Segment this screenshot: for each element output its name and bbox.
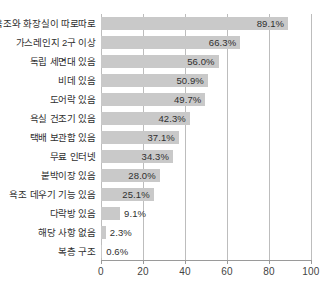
bar-value-label: 9.1% — [124, 204, 146, 223]
x-tick-label: 40 — [170, 266, 200, 277]
bar[interactable] — [101, 226, 106, 239]
category-label: 복층 구조 — [0, 242, 96, 261]
category-label: 무료 인터넷 — [0, 147, 96, 166]
bar-track: 2.3% — [101, 223, 311, 242]
bar-value-label: 2.3% — [110, 223, 132, 242]
bar[interactable] — [101, 207, 120, 220]
bar-row: 무료 인터넷34.3% — [0, 147, 320, 166]
category-label: 독립 세면대 있음 — [0, 52, 96, 71]
bar-track: 25.1% — [101, 185, 311, 204]
x-tick-label: 80 — [254, 266, 284, 277]
bar-value-label: 37.1% — [101, 128, 175, 147]
bar-value-label: 49.7% — [101, 90, 201, 109]
bar[interactable] — [101, 245, 102, 258]
bar-row: 도어락 있음49.7% — [0, 90, 320, 109]
category-label: 욕조와 화장실이 따로따로 — [0, 14, 96, 33]
bar-row: 욕조와 화장실이 따로따로89.1% — [0, 14, 320, 33]
bar-track: 0.6% — [101, 242, 311, 261]
bar-value-label: 0.6% — [106, 242, 128, 261]
bar-value-label: 42.3% — [101, 109, 186, 128]
tick-mark-0 — [101, 260, 102, 264]
bar-track: 89.1% — [101, 14, 311, 33]
category-label: 붙박이장 있음 — [0, 166, 96, 185]
x-tick-label: 0 — [86, 266, 116, 277]
bar-value-label: 50.9% — [101, 71, 204, 90]
bar-track: 9.1% — [101, 204, 311, 223]
bar-row: 욕조 데우기 기능 있음25.1% — [0, 185, 320, 204]
bar-track: 28.0% — [101, 166, 311, 185]
bar-value-label: 89.1% — [101, 14, 284, 33]
tick-mark-20 — [143, 260, 144, 264]
bar-row: 비데 있음50.9% — [0, 71, 320, 90]
x-axis-line — [101, 260, 312, 261]
bar-track: 56.0% — [101, 52, 311, 71]
category-label: 다락방 있음 — [0, 204, 96, 223]
bar-track: 42.3% — [101, 109, 311, 128]
bar-row: 가스레인지 2구 이상66.3% — [0, 33, 320, 52]
bar-track: 66.3% — [101, 33, 311, 52]
tick-mark-60 — [227, 260, 228, 264]
x-tick-label: 20 — [128, 266, 158, 277]
tick-mark-80 — [269, 260, 270, 264]
bar-value-label: 25.1% — [101, 185, 150, 204]
category-label: 도어락 있음 — [0, 90, 96, 109]
bar-row: 다락방 있음9.1% — [0, 204, 320, 223]
x-tick-label: 100 — [296, 266, 320, 277]
category-label: 택배 보관함 있음 — [0, 128, 96, 147]
bar-row: 욕실 건조기 있음42.3% — [0, 109, 320, 128]
bar-row: 해당 사항 없음2.3% — [0, 223, 320, 242]
bar-row: 복층 구조0.6% — [0, 242, 320, 261]
category-label: 해당 사항 없음 — [0, 223, 96, 242]
bar-track: 49.7% — [101, 90, 311, 109]
category-label: 가스레인지 2구 이상 — [0, 33, 96, 52]
bar-value-label: 56.0% — [101, 52, 215, 71]
bar-value-label: 34.3% — [101, 147, 169, 166]
category-label: 욕실 건조기 있음 — [0, 109, 96, 128]
horizontal-bar-chart: 욕조와 화장실이 따로따로89.1%가스레인지 2구 이상66.3%독립 세면대… — [0, 0, 320, 289]
tick-mark-40 — [185, 260, 186, 264]
bar-row: 독립 세면대 있음56.0% — [0, 52, 320, 71]
bar-track: 34.3% — [101, 147, 311, 166]
category-label: 비데 있음 — [0, 71, 96, 90]
bar-row: 택배 보관함 있음37.1% — [0, 128, 320, 147]
tick-mark-100 — [311, 260, 312, 264]
bar-value-label: 28.0% — [101, 166, 156, 185]
category-label: 욕조 데우기 기능 있음 — [0, 185, 96, 204]
bar-track: 50.9% — [101, 71, 311, 90]
x-tick-label: 60 — [212, 266, 242, 277]
bar-track: 37.1% — [101, 128, 311, 147]
bar-value-label: 66.3% — [101, 33, 236, 52]
bar-row: 붙박이장 있음28.0% — [0, 166, 320, 185]
